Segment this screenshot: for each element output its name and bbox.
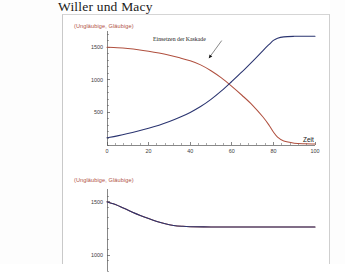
slide-content-frame: (Ungläubige, Gläubige) Einsetzen der Kas…	[62, 14, 330, 264]
chart-no-cascade: (Ungläubige, Gläubige) 10001500	[63, 175, 329, 275]
chart-cascade: (Ungläubige, Gläubige) Einsetzen der Kas…	[63, 19, 329, 159]
chart-no-cascade-legend-label: (Ungläubige, Gläubige)	[74, 177, 134, 183]
chart-cascade-annotation: Einsetzen der Kaskade	[153, 36, 206, 42]
chart-cascade-xaxis-title: Zeit	[303, 136, 314, 143]
svg-text:0: 0	[106, 148, 109, 154]
svg-text:1000: 1000	[91, 252, 103, 258]
svg-text:60: 60	[229, 148, 235, 154]
chart-no-cascade-canvas: 10001500	[63, 175, 329, 275]
svg-text:40: 40	[187, 148, 193, 154]
svg-text:500: 500	[94, 109, 103, 115]
chart-cascade-legend-label: (Ungläubige, Gläubige)	[74, 23, 134, 29]
svg-text:20: 20	[146, 148, 152, 154]
page-margin-left	[0, 0, 62, 264]
svg-text:1500: 1500	[91, 44, 103, 50]
svg-text:1500: 1500	[91, 199, 103, 205]
page-title: Willer und Macy	[58, 0, 153, 15]
svg-text:100: 100	[311, 148, 320, 154]
svg-text:80: 80	[270, 148, 276, 154]
svg-text:1000: 1000	[91, 77, 103, 83]
page-margin-right	[330, 0, 345, 264]
